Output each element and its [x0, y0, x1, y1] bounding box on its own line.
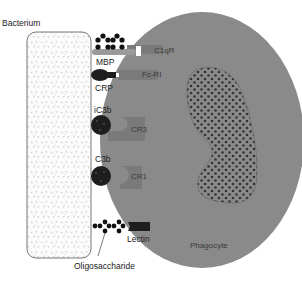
fcri-label: Fc-RI — [142, 71, 162, 79]
bacterium-label: Bacterium — [2, 19, 40, 28]
crp-label: CRP — [95, 84, 113, 93]
ic3b-label: iC3b — [94, 106, 111, 115]
c1qr-label: C1qR — [154, 47, 174, 55]
c3b-opsonin — [91, 166, 111, 186]
ic3b-opsonin — [91, 115, 111, 135]
oligosaccharide-label: Oligosaccharide — [74, 262, 135, 271]
cr3-label: CR3 — [131, 126, 147, 134]
diagram-canvas — [0, 0, 302, 286]
mbp-label: MBP — [96, 58, 114, 67]
phagocyte-label: Phagocyte — [190, 242, 228, 250]
bacterium-cell — [27, 32, 91, 258]
lectin-label: Lectin — [127, 235, 150, 244]
c3b-label: C3b — [95, 155, 111, 164]
cr1-label: CR1 — [131, 173, 147, 181]
oligosaccharide — [93, 220, 126, 256]
mbp-opsonin — [92, 33, 141, 56]
lectin-receptor — [128, 222, 150, 231]
